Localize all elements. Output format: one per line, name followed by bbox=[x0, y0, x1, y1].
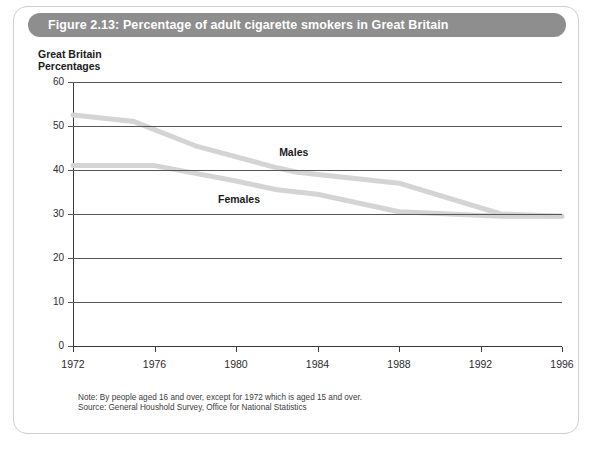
y-tick-label: 0 bbox=[38, 340, 64, 351]
x-tick-label: 1996 bbox=[542, 358, 582, 370]
series-line-females bbox=[73, 166, 562, 217]
x-tick-mark bbox=[399, 347, 400, 352]
gridline bbox=[73, 214, 562, 215]
x-tick-mark bbox=[318, 347, 319, 352]
gridline bbox=[73, 126, 562, 127]
gridline bbox=[73, 82, 562, 83]
series-lines bbox=[14, 7, 580, 435]
gridline bbox=[73, 302, 562, 303]
x-tick-mark bbox=[73, 347, 74, 352]
gridline bbox=[73, 258, 562, 259]
x-tick-label: 1984 bbox=[298, 358, 338, 370]
y-tick-label: 50 bbox=[38, 120, 64, 131]
x-tick-label: 1992 bbox=[461, 358, 501, 370]
series-line-males bbox=[73, 115, 562, 216]
y-tick-mark bbox=[68, 258, 73, 259]
footnote-source: Source: General Houshold Survey, Office … bbox=[78, 403, 307, 412]
y-tick-label: 30 bbox=[38, 208, 64, 219]
y-tick-label: 40 bbox=[38, 164, 64, 175]
figure-panel: Figure 2.13: Percentage of adult cigaret… bbox=[13, 6, 579, 434]
x-tick-label: 1988 bbox=[379, 358, 419, 370]
series-label-females: Females bbox=[218, 193, 260, 205]
y-tick-mark bbox=[68, 302, 73, 303]
series-label-males: Males bbox=[279, 146, 308, 158]
gridline bbox=[73, 170, 562, 171]
y-tick-mark bbox=[68, 82, 73, 83]
y-tick-label: 10 bbox=[38, 296, 64, 307]
x-tick-label: 1976 bbox=[135, 358, 175, 370]
y-tick-label: 20 bbox=[38, 252, 64, 263]
y-tick-mark bbox=[68, 126, 73, 127]
x-tick-mark bbox=[155, 347, 156, 352]
y-tick-mark bbox=[68, 214, 73, 215]
x-tick-label: 1980 bbox=[216, 358, 256, 370]
x-tick-mark bbox=[562, 347, 563, 352]
x-tick-mark bbox=[481, 347, 482, 352]
y-tick-label: 60 bbox=[38, 76, 64, 87]
plot-area: Males Females 01020304050601972197619801… bbox=[14, 7, 580, 435]
footnote-note: Note: By people aged 16 and over, except… bbox=[78, 393, 362, 402]
x-tick-mark bbox=[236, 347, 237, 352]
y-tick-mark bbox=[68, 170, 73, 171]
x-tick-label: 1972 bbox=[53, 358, 93, 370]
